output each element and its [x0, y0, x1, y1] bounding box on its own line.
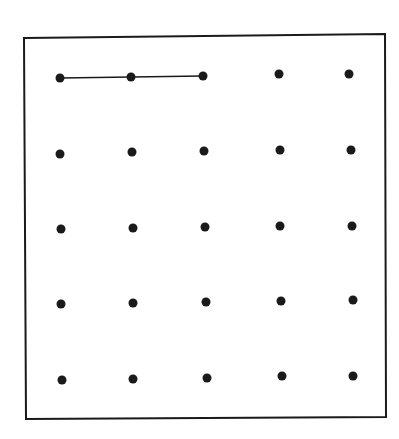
grid-dot-r1-c3 [199, 72, 208, 81]
grid-dot-r4-c4 [277, 297, 286, 306]
grid-dot-r2-c2 [128, 148, 137, 157]
grid-dot-r1-c1 [56, 74, 65, 83]
grid-dot-r3-c5 [348, 222, 357, 231]
grid-dot-r5-c2 [129, 375, 138, 384]
grid-dot-r2-c4 [276, 146, 285, 155]
grid-dot-r3-c3 [201, 223, 210, 232]
grid-dot-r4-c3 [202, 298, 211, 307]
grid-dot-r5-c1 [58, 376, 67, 385]
grid-dot-r5-c4 [278, 372, 287, 381]
grid-dot-r5-c5 [349, 372, 358, 381]
dot-grid-diagram [0, 0, 399, 439]
grid-dot-r2-c5 [347, 146, 356, 155]
grid-dot-r1-c5 [345, 70, 354, 79]
grid-dot-r4-c5 [349, 296, 358, 305]
grid-dot-r5-c3 [203, 374, 212, 383]
grid-dot-r3-c1 [57, 225, 66, 234]
grid-dots [56, 70, 358, 385]
grid-dot-r1-c4 [275, 70, 284, 79]
grid-dot-r1-c2 [127, 73, 136, 82]
grid-dot-r2-c1 [56, 150, 65, 159]
grid-dot-r2-c3 [200, 147, 209, 156]
grid-dot-r4-c1 [57, 300, 66, 309]
grid-dot-r4-c2 [129, 299, 138, 308]
grid-dot-r3-c4 [276, 222, 285, 231]
grid-dot-r3-c2 [129, 224, 138, 233]
